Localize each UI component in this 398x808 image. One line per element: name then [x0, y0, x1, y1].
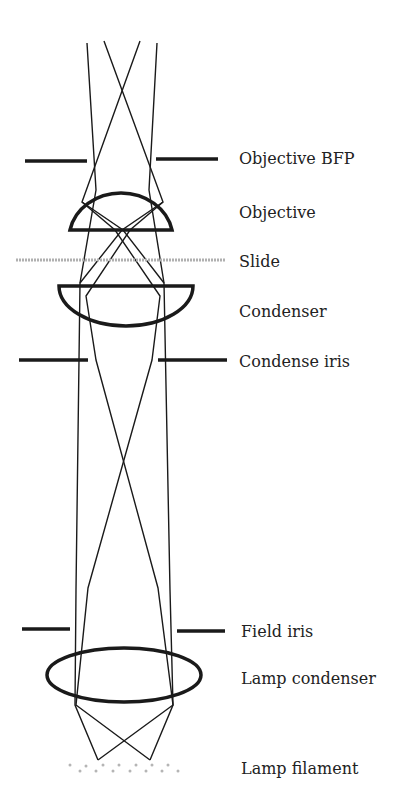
label-objective: Objective — [239, 205, 316, 221]
label-slide: Slide — [239, 254, 280, 270]
lamp-filament — [69, 764, 180, 773]
objective-bfp-stops — [25, 159, 218, 161]
objective-lens — [70, 193, 172, 230]
label-objective-bfp: Objective BFP — [239, 151, 355, 167]
label-lamp-filament: Lamp filament — [241, 761, 358, 777]
label-condenser: Condenser — [239, 304, 327, 320]
field-iris-stops — [22, 629, 225, 631]
label-lamp-condenser: Lamp condenser — [241, 671, 376, 687]
lamp-condenser-lens — [47, 648, 201, 702]
label-condense-iris: Condense iris — [239, 354, 350, 370]
label-field-iris: Field iris — [241, 624, 313, 640]
